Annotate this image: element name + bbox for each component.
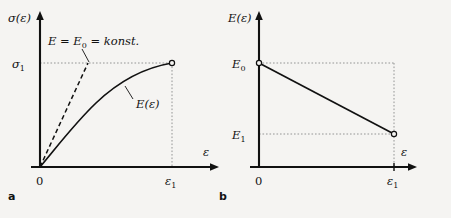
x-tick-label-eps1-sub-a: 1: [171, 181, 176, 190]
panel-letter-b: b: [219, 191, 227, 202]
panel-b: E(ε) ε E0 E1 0 ε1: [227, 11, 417, 190]
tangent-annotation-lead: E = E: [47, 34, 82, 48]
figure-svg: σ(ε) ε σ1 0 ε1 E(ε) E = E0 = konst.: [0, 0, 451, 218]
tangent-annotation-tail: = konst.: [87, 34, 139, 48]
y-axis-arrowhead-a: [36, 11, 44, 20]
panel-letter-a: a: [8, 191, 15, 202]
curve-endpoint-marker-a: [169, 60, 174, 65]
y-tick-label-E0-sub: 0: [240, 64, 245, 73]
x-axis-arrowhead-b: [408, 163, 417, 171]
y-tick-label-E0: E0: [231, 57, 246, 73]
origin-label-b: 0: [255, 174, 262, 188]
curve-label-leader-a: [125, 86, 133, 99]
y-tick-label-E1-sub: 1: [240, 135, 245, 144]
y-tick-label-E1: E1: [231, 128, 246, 144]
tangent-label-leader: [82, 49, 89, 62]
origin-label-a: 0: [36, 174, 43, 188]
y-tick-label-sigma1: σ1: [12, 57, 25, 73]
figure-container: σ(ε) ε σ1 0 ε1 E(ε) E = E0 = konst.: [0, 0, 451, 218]
modulus-line: [259, 63, 394, 134]
modulus-end-marker: [391, 131, 396, 136]
modulus-start-marker: [256, 60, 261, 65]
x-tick-label-eps1-a: ε1: [165, 174, 176, 190]
y-axis-arrowhead-b: [255, 11, 263, 20]
x-axis-label-a: ε: [203, 145, 209, 159]
x-axis-arrowhead-a: [210, 163, 219, 171]
tangent-annotation: E = E0 = konst.: [47, 34, 139, 50]
x-tick-label-eps1-sub-b: 1: [393, 181, 398, 190]
y-tick-label-sigma1-sub: 1: [20, 64, 25, 73]
y-axis-label-b: E(ε): [227, 11, 252, 25]
tangent-line-E0: [40, 63, 88, 167]
stress-strain-curve: [40, 63, 172, 167]
y-axis-label-a: σ(ε): [8, 11, 31, 25]
panel-a: σ(ε) ε σ1 0 ε1 E(ε) E = E0 = konst.: [8, 11, 219, 190]
curve-annotation-a: E(ε): [135, 97, 160, 111]
x-tick-label-eps1-b: ε1: [387, 174, 398, 190]
x-axis-label-b: ε: [401, 145, 407, 159]
